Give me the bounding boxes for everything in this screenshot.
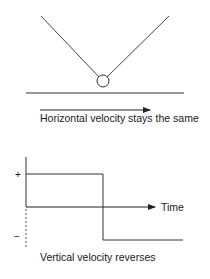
- vertical-caption: Vertical velocity reverses: [40, 251, 156, 263]
- bounce-diagram: Horizontal velocity stays the same + − T…: [0, 0, 210, 279]
- outgoing-trajectory-line: [107, 16, 169, 77]
- bottom-panel: + − Time Vertical velocity reverses: [14, 157, 184, 263]
- horizontal-caption: Horizontal velocity stays the same: [40, 112, 199, 124]
- time-label: Time: [161, 201, 184, 213]
- ball-icon: [97, 75, 109, 87]
- plus-label: +: [15, 169, 21, 180]
- incoming-trajectory-line: [41, 16, 99, 77]
- top-panel: Horizontal velocity stays the same: [26, 16, 199, 124]
- minus-label: −: [14, 231, 20, 242]
